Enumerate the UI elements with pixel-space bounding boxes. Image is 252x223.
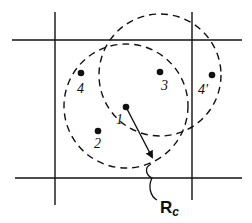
particle-dot [157,69,164,76]
particle-label: 2 [94,136,101,151]
cutoff-radius-arrow [126,107,152,157]
particle-4: 4 [77,70,84,96]
particle-dot [78,70,85,77]
radius-label-subscript: c [172,205,179,219]
radius-label-main: R [160,198,172,217]
particle-dot [123,104,130,111]
particle-3: 3 [157,69,168,93]
particle-1: 1 [116,104,129,127]
particle-4p: 4' [198,72,215,97]
particle-dot [95,128,102,135]
particle-label: 3 [160,78,168,93]
particle-2: 2 [94,128,101,151]
particle-label: 4' [198,82,209,97]
particles: 12344' [77,69,215,151]
particle-label: 1 [116,112,123,127]
cell-list-diagram: 12344' Rc [0,0,252,223]
radius-brace [146,164,157,200]
cutoff-radius-label: Rc [160,198,179,219]
particle-label: 4 [77,81,84,96]
particle-dot [209,72,216,79]
